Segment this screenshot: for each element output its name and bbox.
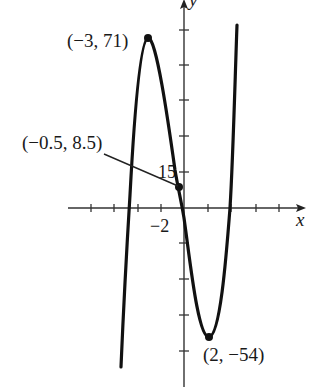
cubic-curve — [121, 25, 237, 367]
max-point-label: (−3, 71) — [67, 30, 128, 52]
x-tick-label: −2 — [150, 216, 169, 236]
y-axis-label: y — [187, 0, 198, 10]
local-min-point — [205, 333, 213, 341]
function-graph: x −2 y 15 (−3, 71) (−0.5, 8.5) (2, −54) — [0, 0, 313, 391]
inflection-point-label: (−0.5, 8.5) — [22, 132, 102, 154]
min-point-label: (2, −54) — [203, 344, 264, 366]
inflection-point — [175, 183, 183, 191]
x-axis-label: x — [295, 209, 305, 230]
local-max-point — [144, 34, 152, 42]
